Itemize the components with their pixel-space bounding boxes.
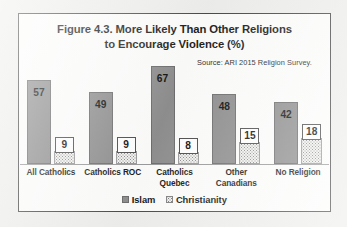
x-axis-label: Catholics ROC [82,167,144,178]
x-axis-label: OtherCanadians [205,167,267,188]
x-axis-label-line: Canadians [205,178,267,189]
x-axis-label: No Religion [267,167,329,178]
legend-item-islam: Islam [122,194,155,205]
chart-legend: Islam Christianity [19,194,330,205]
plot-area: 57949967848154218 [20,54,329,164]
legend-swatch-islam-icon [122,196,129,203]
x-axis-label-line: Other [205,167,267,178]
x-axis-label-line: All Catholics [20,167,82,178]
legend-label-christianity: Christianity [176,194,227,205]
x-axis-label-line: Catholics ROC [82,167,144,178]
legend-swatch-christianity-icon [166,196,173,203]
chart-title: Figure 4.3. More Likely Than Other Relig… [19,22,330,51]
bar-value-christianity: 18 [302,124,321,140]
x-axis-label-line: Catholics [144,167,206,178]
x-axis-label: CatholicsQuebec [144,167,206,188]
x-axis-category-labels: All CatholicsCatholics ROCCatholicsQuebe… [20,167,329,193]
x-axis-line [20,164,329,165]
x-axis-label-line: Quebec [144,178,206,189]
chart-figure: Figure 4.3. More Likely Than Other Relig… [18,13,331,212]
bar-group: 4218 [20,54,329,164]
bar-christianity [301,138,322,164]
legend-item-christianity: Christianity [166,194,226,205]
bar-value-islam: 42 [274,109,298,120]
x-axis-label: All Catholics [20,167,82,178]
x-axis-label-line: No Religion [267,167,329,178]
legend-label-islam: Islam [132,194,156,205]
chart-title-line-1: Figure 4.3. More Likely Than Other Relig… [19,22,330,37]
page-background: Figure 4.3. More Likely Than Other Relig… [0,0,347,227]
chart-title-line-2: to Encourage Violence (%) [19,37,330,52]
